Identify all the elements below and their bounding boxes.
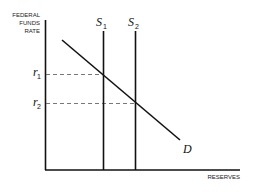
y-axis-label-line-3: RATE xyxy=(24,28,40,34)
supply-1-label: S xyxy=(96,15,102,29)
demand-curve xyxy=(62,40,180,140)
supply-1-subscript: 1 xyxy=(103,23,107,30)
demand-label: D xyxy=(182,142,192,156)
y-axis-label-line-1: FEDERAL xyxy=(12,12,40,18)
x-axis-label: RESERVES xyxy=(207,174,240,180)
reserves-market-diagram: FEDERAL FUNDS RATE RESERVES S 1 S 2 r 1 … xyxy=(0,0,253,192)
rate-1-subscript: 1 xyxy=(37,73,41,80)
rate-2-subscript: 2 xyxy=(37,103,41,110)
supply-2-subscript: 2 xyxy=(135,23,139,30)
y-axis-label-line-2: FUNDS xyxy=(19,20,40,26)
supply-2-label: S xyxy=(128,15,134,29)
